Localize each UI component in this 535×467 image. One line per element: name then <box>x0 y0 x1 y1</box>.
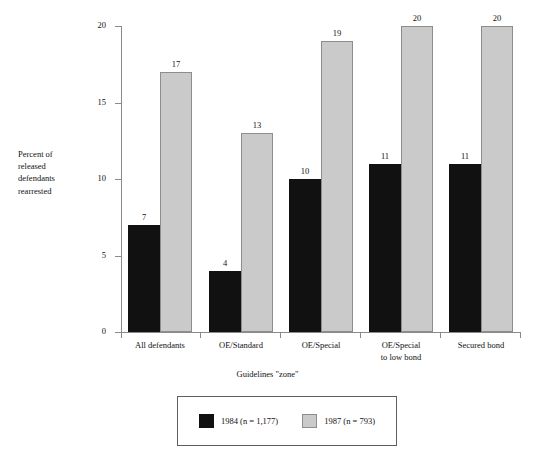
bar-value-label-0-1987: 17 <box>172 59 181 69</box>
bar-value-label-4-1987: 20 <box>493 13 502 23</box>
bar-0-1987[interactable]: 17 <box>160 72 192 332</box>
y-axis-title-line-4: rearrested <box>18 185 96 197</box>
y-axis-tick-5: 5 <box>115 256 122 257</box>
x-axis-category-label-2: OE/Special <box>302 340 341 352</box>
x-axis-title: Guidelines "zone" <box>0 369 535 379</box>
bar-1-1987[interactable]: 13 <box>241 133 273 332</box>
bar-value-label-3-1984: 11 <box>381 151 389 161</box>
legend-label-1987: 1987 (n = 793) <box>324 416 375 426</box>
bar-1-1984[interactable]: 4 <box>209 271 241 332</box>
y-axis-title-line-2: released <box>18 160 96 172</box>
x-axis-category-label-4: Secured bond <box>458 340 505 352</box>
bar-value-label-0-1984: 7 <box>142 212 146 222</box>
bar-value-label-3-1987: 20 <box>413 13 422 23</box>
x-axis-tick-0 <box>121 332 122 338</box>
x-axis-category-label-1: OE/Standard <box>219 340 263 352</box>
bar-value-label-2-1984: 10 <box>301 166 310 176</box>
legend: 1984 (n = 1,177) 1987 (n = 793) <box>177 396 397 446</box>
y-axis-tick-10: 10 <box>115 179 122 180</box>
bar-value-label-2-1987: 19 <box>333 28 342 38</box>
bar-3-1984[interactable]: 11 <box>369 164 401 332</box>
bar-value-label-1-1984: 4 <box>223 258 227 268</box>
legend-label-1984: 1984 (n = 1,177) <box>221 416 278 426</box>
x-axis-tick-2 <box>280 332 281 338</box>
bar-2-1987[interactable]: 19 <box>321 41 353 332</box>
x-axis-tick-3 <box>360 332 361 338</box>
x-axis-line <box>121 332 520 333</box>
x-axis-tick-5 <box>520 332 521 338</box>
y-axis-tick-label-10: 10 <box>98 173 107 183</box>
legend-swatch-1987 <box>302 414 317 428</box>
y-axis-tick-20: 20 <box>115 26 122 27</box>
y-axis-tick-label-15: 15 <box>98 97 107 107</box>
legend-item-1987[interactable]: 1987 (n = 793) <box>302 414 375 428</box>
bar-4-1984[interactable]: 11 <box>449 164 481 332</box>
bar-3-1987[interactable]: 20 <box>401 26 433 332</box>
x-axis-tick-1 <box>200 332 201 338</box>
bar-value-label-4-1984: 11 <box>461 151 469 161</box>
bar-0-1984[interactable]: 7 <box>128 225 160 332</box>
y-axis-tick-15: 15 <box>115 103 122 104</box>
y-axis-title-line-1: Percent of <box>18 148 96 160</box>
bar-value-label-1-1987: 13 <box>253 120 262 130</box>
plot-area: 05101520 717413101911201120 <box>121 26 520 333</box>
x-axis-tick-4 <box>440 332 441 338</box>
x-axis-category-label-0: All defendants <box>135 340 185 352</box>
bar-chart: Percent of released defendants rearreste… <box>0 0 535 467</box>
y-axis-title: Percent of released defendants rearreste… <box>18 148 96 197</box>
y-axis-tick-label-20: 20 <box>98 20 107 30</box>
bar-2-1984[interactable]: 10 <box>289 179 321 332</box>
legend-swatch-1984 <box>199 414 214 428</box>
legend-item-1984[interactable]: 1984 (n = 1,177) <box>199 414 278 428</box>
bar-4-1987[interactable]: 20 <box>481 26 513 332</box>
y-axis-title-line-3: defendants <box>18 172 96 184</box>
y-axis-tick-label-5: 5 <box>102 250 106 260</box>
y-axis-tick-label-0: 0 <box>102 326 106 336</box>
x-axis-category-label-3: OE/Special to low bond <box>381 340 422 363</box>
